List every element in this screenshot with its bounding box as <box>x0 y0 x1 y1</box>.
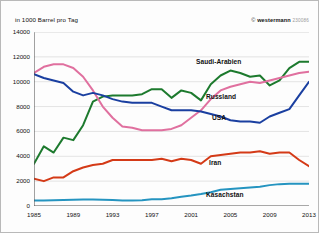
series-line-saudi-arabien <box>34 62 309 164</box>
copyright-credit: © westermann 230086 <box>251 17 309 23</box>
x-tick-label: 2009 <box>255 211 285 218</box>
y-tick-label: 6000 <box>2 127 30 134</box>
y-tick-label: 12000 <box>2 53 30 60</box>
y-tick-label: 4000 <box>2 152 30 159</box>
y-tick-label: 8000 <box>2 103 30 110</box>
y-tick-label: 14000 <box>2 28 30 35</box>
series-line-iran <box>34 151 309 181</box>
y-tick-label: 2000 <box>2 177 30 184</box>
y-tick-label: 0 <box>2 202 30 209</box>
series-label-kasachstan: Kasachstan <box>206 191 244 198</box>
series-label-russland: Russland <box>206 93 236 100</box>
series-line-kasachstan <box>34 184 309 201</box>
publisher-code: 230086 <box>292 18 309 23</box>
series-label-saudi-arabien: Saudi-Arabien <box>196 58 241 65</box>
x-tick-label: 2013 <box>294 211 319 218</box>
series-label-iran: Iran <box>209 159 221 166</box>
copyright-symbol: © <box>251 17 255 23</box>
y-axis-unit-label: in 1000 Barrel pro Tag <box>15 16 78 23</box>
publisher-name: westermann <box>257 17 291 23</box>
x-tick-label: 2001 <box>176 211 206 218</box>
plot-area <box>34 32 309 206</box>
x-tick-label: 1985 <box>19 211 49 218</box>
line-chart-svg <box>34 32 309 206</box>
y-tick-label: 10000 <box>2 78 30 85</box>
chart-figure: in 1000 Barrel pro Tag © westermann 2300… <box>0 0 319 233</box>
series-label-usa: USA <box>212 114 226 121</box>
x-tick-label: 1993 <box>98 211 128 218</box>
x-tick-label: 1997 <box>137 211 167 218</box>
x-tick-label: 2005 <box>215 211 245 218</box>
x-tick-label: 1989 <box>58 211 88 218</box>
